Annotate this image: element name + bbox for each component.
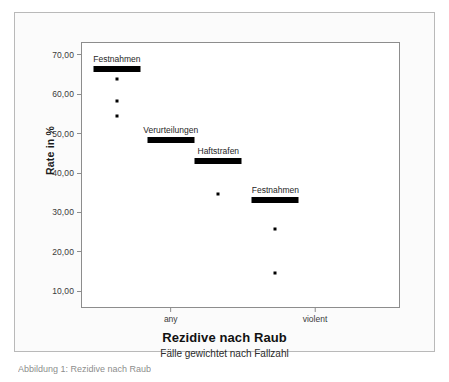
series-data-point <box>274 271 277 274</box>
y-axis-tick-label: 10,00 <box>52 286 74 296</box>
y-axis-tick: 30,00 <box>52 207 82 217</box>
y-axis-tick-label: 40,00 <box>52 168 74 178</box>
y-axis-tick-mark <box>77 54 82 55</box>
series-label: Festnahmen <box>252 185 299 195</box>
series-data-point <box>115 100 118 103</box>
series-mean-bar <box>147 137 194 143</box>
y-axis-tick-mark <box>77 133 82 134</box>
x-axis-subtitle: Fälle gewichtet nach Fallzahl <box>0 348 449 359</box>
y-axis-tick: 40,00 <box>52 168 82 178</box>
y-axis-tick: 10,00 <box>52 286 82 296</box>
x-axis-tick-mark <box>170 307 171 312</box>
series-mean-bar <box>195 158 242 164</box>
x-axis-tick-label: violent <box>303 314 328 324</box>
series-label: Verurteilungen <box>143 125 198 135</box>
x-axis-tick: any <box>164 307 178 324</box>
series-data-point <box>115 114 118 117</box>
series-mean-bar <box>93 66 140 72</box>
figure-bottom-caption: Abbildung 1: Rezidive nach Raub <box>18 364 151 374</box>
y-axis-tick: 20,00 <box>52 247 82 257</box>
y-axis-tick-mark <box>77 94 82 95</box>
series-data-point <box>115 77 118 80</box>
y-axis-tick-label: 50,00 <box>52 129 74 139</box>
y-axis-tick-label: 70,00 <box>52 50 74 60</box>
y-axis-tick: 60,00 <box>52 89 82 99</box>
series-label: Festnahmen <box>93 54 140 64</box>
x-axis-tick: violent <box>303 307 328 324</box>
x-axis-tick-mark <box>314 307 315 312</box>
y-axis-tick: 50,00 <box>52 129 82 139</box>
y-axis-tick-label: 60,00 <box>52 89 74 99</box>
x-axis-tick-label: any <box>164 314 178 324</box>
y-axis-tick-mark <box>77 291 82 292</box>
x-axis-title: Rezidive nach Raub <box>0 330 449 345</box>
y-axis-tick: 70,00 <box>52 50 82 60</box>
series-data-point <box>274 227 277 230</box>
series-mean-bar <box>252 197 299 203</box>
series-label: Haftstrafen <box>198 146 240 156</box>
series-data-point <box>217 192 220 195</box>
y-axis-tick-mark <box>77 173 82 174</box>
y-axis-tick-label: 30,00 <box>52 207 74 217</box>
y-axis-tick-mark <box>77 251 82 252</box>
y-axis-tick-mark <box>77 212 82 213</box>
y-axis-tick-label: 20,00 <box>52 247 74 257</box>
plot-area: 70,0060,0050,0040,0030,0020,0010,00 anyv… <box>81 42 400 308</box>
